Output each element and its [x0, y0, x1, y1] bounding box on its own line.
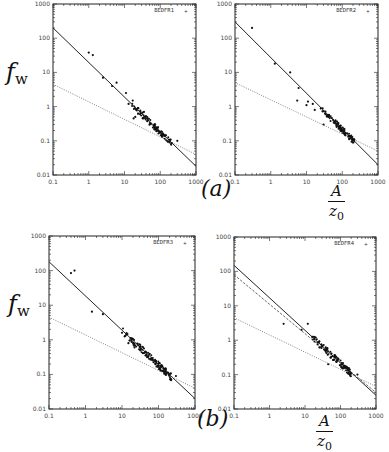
data-point [167, 136, 169, 138]
y-axis-label-bottom: fw [8, 290, 30, 320]
x-label-denominator: z0 [317, 432, 332, 452]
data-point [148, 118, 150, 120]
data-point [307, 323, 309, 325]
data-point [283, 323, 285, 325]
y-label-base: f [6, 58, 15, 86]
data-point [170, 378, 172, 380]
data-point [102, 313, 104, 315]
data-point [91, 311, 93, 313]
data-point [150, 354, 152, 356]
data-point [356, 374, 358, 376]
data-point [125, 334, 127, 336]
data-point [339, 364, 341, 366]
data-point [128, 339, 130, 341]
y-label-sub: w [17, 302, 30, 320]
panel-bedfr4: 0.111010010000.010.11101001000BEDFR4+ [216, 233, 384, 419]
data-point [150, 359, 152, 361]
data-point [115, 82, 117, 84]
data-point [146, 120, 148, 122]
x-tick-label: 0.1 [229, 412, 239, 419]
y-tick-label: 10 [224, 68, 232, 75]
data-point [136, 342, 138, 344]
y-tick-label: 1000 [217, 0, 232, 7]
data-point [122, 327, 124, 329]
x-tick-label: 100 [335, 412, 347, 419]
data-point [141, 112, 143, 114]
data-point [313, 336, 315, 338]
data-point [73, 270, 75, 272]
legend-marker-icon: + [184, 8, 188, 14]
panel-bedfr2: 0.111010010000.010.11101001000BEDFR2+ [217, 0, 386, 185]
data-point [164, 134, 166, 136]
data-point [157, 126, 159, 128]
data-point [147, 356, 149, 358]
panel-bedfr1: 0.111010010000.010.11101001000BEDFR1+ [35, 0, 204, 185]
y-tick-label: 0.01 [37, 171, 51, 178]
data-point [166, 140, 168, 142]
data-point [143, 348, 145, 350]
x-tick-label: 10 [301, 412, 309, 419]
x-tick-label: 1 [84, 412, 88, 419]
data-point [325, 352, 327, 354]
y-tick-label: 100 [35, 267, 47, 274]
legend-marker-icon: + [366, 8, 370, 14]
y-tick-label: 100 [39, 34, 51, 41]
data-point [251, 27, 253, 29]
y-tick-label: 0.1 [40, 137, 50, 144]
data-point [326, 348, 328, 350]
data-point [330, 120, 332, 122]
y-tick-label: 1 [228, 103, 232, 110]
data-point [343, 367, 345, 369]
data-point [329, 117, 331, 119]
data-point [92, 54, 94, 56]
x-tick-label: 10 [303, 178, 311, 185]
data-point [348, 133, 350, 135]
data-point [126, 332, 128, 334]
data-point [327, 363, 329, 365]
data-point [351, 139, 353, 141]
data-point [335, 120, 337, 122]
data-point [150, 122, 152, 124]
data-point [319, 346, 321, 348]
data-point [133, 346, 135, 348]
data-point [88, 51, 90, 53]
data-point [155, 361, 157, 363]
x-label-den-base: z [329, 202, 337, 220]
data-point [344, 365, 346, 367]
x-label-den-sub: 0 [337, 210, 344, 223]
data-point [329, 351, 331, 353]
data-point [134, 107, 136, 109]
data-point [153, 128, 155, 130]
data-point [154, 363, 156, 365]
data-point [127, 342, 129, 344]
data-point [139, 112, 141, 114]
data-point [133, 344, 135, 346]
data-point [289, 71, 291, 73]
data-point [163, 373, 165, 375]
data-point [323, 110, 325, 112]
data-point [300, 329, 302, 331]
data-point [162, 136, 164, 138]
legend-label: BEDFR4 [334, 240, 355, 246]
y-tick-label: 0.1 [36, 370, 46, 377]
x-axis-label-bottom: A z0 [316, 413, 333, 452]
data-point [169, 373, 171, 375]
legend-label: BEDFR3 [153, 239, 173, 245]
data-point [344, 132, 346, 134]
data-point [157, 365, 159, 367]
data-point [325, 110, 327, 112]
data-point [330, 115, 332, 117]
data-point [333, 120, 335, 122]
data-point [332, 355, 334, 357]
data-point [145, 351, 147, 353]
data-point [170, 142, 172, 144]
data-point [338, 359, 340, 361]
x-tick-label: 10 [121, 178, 129, 185]
data-point [157, 361, 159, 363]
data-point [324, 113, 326, 115]
data-point [352, 142, 354, 144]
data-point [312, 103, 314, 105]
data-point [149, 353, 151, 355]
data-point [336, 123, 338, 125]
figure-canvas: 0.111010010000.010.11101001000BEDFR1+ 0.… [0, 0, 389, 452]
